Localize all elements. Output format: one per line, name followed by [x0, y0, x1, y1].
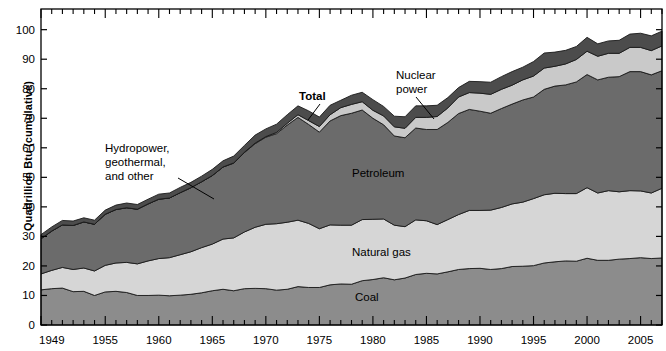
y-tick-label: 70 — [22, 112, 35, 124]
x-tick-label: 1975 — [307, 334, 333, 346]
x-tick-label: 1985 — [414, 334, 440, 346]
y-tick-label: 20 — [22, 260, 35, 272]
y-tick-label: 90 — [22, 53, 35, 65]
x-tick-label: 1995 — [521, 334, 547, 346]
annotation-nuclear-line1: Nuclear — [396, 69, 436, 81]
stacked-area-chart: 0102030405060708090100 19491955196019651… — [0, 0, 666, 351]
annotation-petroleum: Petroleum — [352, 167, 404, 179]
x-tick-label: 1955 — [92, 334, 118, 346]
x-tick-label: 2005 — [628, 334, 654, 346]
annotation-hydropower-line3: and other — [105, 170, 154, 182]
annotation-total: Total — [299, 90, 326, 102]
annotation-natural-gas: Natural gas — [352, 246, 411, 258]
y-tick-label: 80 — [22, 83, 35, 95]
x-tick-label: 1970 — [253, 334, 279, 346]
y-tick-label: 0 — [29, 319, 35, 331]
chart-figure: Quadrillion Btu (cumulative) 01020304050… — [0, 0, 666, 351]
x-tick-label: 1949 — [39, 334, 65, 346]
x-tick-label: 2000 — [574, 334, 600, 346]
x-tick-label: 1960 — [146, 334, 172, 346]
y-tick-label: 40 — [22, 201, 35, 213]
x-tick-label: 1965 — [200, 334, 226, 346]
annotation-hydropower-line2: geothermal, — [105, 156, 166, 168]
y-tick-labels: 0102030405060708090100 — [16, 24, 35, 331]
y-tick-label: 30 — [22, 230, 35, 242]
x-tick-label: 1990 — [467, 334, 493, 346]
y-tick-label: 60 — [22, 142, 35, 154]
x-tick-labels: 1949195519601965197019751980198519901995… — [39, 334, 653, 346]
annotation-coal: Coal — [355, 291, 379, 303]
x-tick-label: 1980 — [360, 334, 386, 346]
annotation-nuclear-line2: power — [396, 83, 427, 95]
annotation-hydropower-line1: Hydropower, — [105, 142, 170, 154]
y-tick-label: 50 — [22, 171, 35, 183]
y-tick-label: 100 — [16, 24, 35, 36]
annotation-total-label: Total — [299, 90, 326, 102]
y-tick-label: 10 — [22, 289, 35, 301]
